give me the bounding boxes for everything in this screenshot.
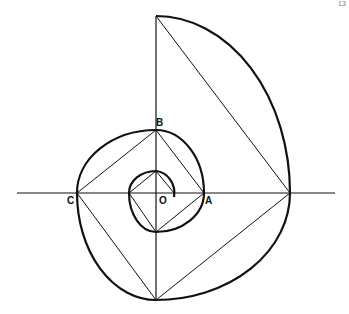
page-number: 13 (338, 0, 346, 7)
label-a: A (205, 195, 212, 206)
label-b: B (156, 117, 163, 128)
spiral-diagram: B O A C 13 (0, 0, 349, 314)
spiral-curve (77, 16, 290, 300)
label-o: O (159, 195, 167, 206)
label-c: C (67, 195, 74, 206)
spiral-figure (0, 0, 349, 314)
chords (77, 16, 290, 300)
